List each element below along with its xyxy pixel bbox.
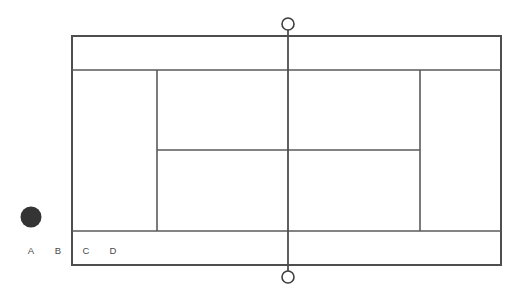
net-post-top-icon xyxy=(282,18,294,30)
point-label-b: B xyxy=(55,246,62,256)
ball-marker xyxy=(21,207,42,228)
court-svg xyxy=(0,0,517,295)
point-label-c: C xyxy=(82,246,89,256)
point-label-d: D xyxy=(109,246,116,256)
tennis-court-diagram: A B C D xyxy=(0,0,517,295)
point-label-a: A xyxy=(28,246,35,256)
net-post-bottom-icon xyxy=(282,271,294,283)
